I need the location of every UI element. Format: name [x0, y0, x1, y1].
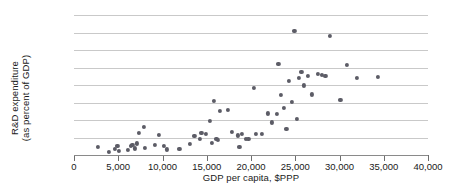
x-tick-label: 30,000: [325, 161, 354, 172]
data-point: [266, 111, 270, 115]
data-point: [165, 147, 169, 151]
data-point: [260, 132, 264, 136]
data-point: [198, 137, 202, 141]
gridline-y-2.5: [74, 68, 428, 69]
data-point: [229, 130, 233, 134]
data-point: [143, 146, 147, 150]
gridline-y-0.5: [74, 138, 428, 139]
data-point: [276, 62, 280, 66]
data-point: [252, 86, 256, 90]
data-point: [275, 112, 279, 116]
scatter-chart-figure: R&D expenditure (as percent of GDP) GDP …: [0, 0, 458, 196]
data-point: [216, 138, 220, 142]
data-point: [246, 136, 250, 140]
data-point: [328, 34, 332, 38]
data-point: [310, 92, 314, 96]
data-point: [115, 144, 119, 148]
data-point: [117, 149, 121, 153]
data-point: [287, 79, 291, 83]
data-point: [344, 63, 348, 67]
data-point: [279, 93, 283, 97]
data-point: [188, 142, 192, 146]
data-point: [96, 145, 100, 149]
data-point: [208, 119, 212, 123]
data-point: [338, 98, 342, 102]
data-point: [282, 106, 286, 110]
data-point: [254, 132, 258, 136]
gridline-y-1: [74, 120, 428, 121]
data-point: [297, 76, 301, 80]
y-axis-title-line2: (as percent of GDP): [20, 55, 32, 141]
data-point: [226, 108, 230, 112]
gridline-y-1.5: [74, 103, 428, 104]
data-point: [270, 120, 274, 124]
data-point: [157, 133, 161, 137]
data-point: [106, 149, 110, 153]
x-tick-label: 5,000: [106, 161, 130, 172]
y-axis-title: R&D expenditure (as percent of GDP): [0, 0, 40, 196]
x-axis-title: GDP per capita, $PPP: [74, 172, 428, 183]
x-tick-label: 40,000: [413, 161, 442, 172]
data-point: [142, 125, 146, 129]
x-tick-label: 0: [71, 161, 76, 172]
data-point: [302, 83, 306, 87]
y-axis-title-line1: R&D expenditure: [9, 55, 21, 141]
gridline-y-3: [74, 50, 428, 51]
data-point: [135, 141, 139, 145]
x-tick-label: 20,000: [236, 161, 265, 172]
gridline-y-4: [74, 15, 428, 16]
x-tick-label: 10,000: [148, 161, 177, 172]
data-point: [355, 76, 359, 80]
data-point: [306, 74, 310, 78]
gridline-y-3.5: [74, 33, 428, 34]
plot-area: [74, 15, 428, 155]
data-point: [204, 132, 208, 136]
data-point: [152, 142, 156, 146]
data-point: [299, 70, 303, 74]
data-point: [133, 146, 137, 150]
x-tick-label: 25,000: [281, 161, 310, 172]
data-point: [177, 147, 181, 151]
data-point: [240, 132, 244, 136]
x-tick-label: 35,000: [369, 161, 398, 172]
data-point: [218, 109, 222, 113]
data-point: [284, 127, 288, 131]
data-point: [237, 145, 241, 149]
data-point: [126, 148, 130, 152]
data-point: [137, 131, 141, 135]
data-point: [375, 75, 379, 79]
data-point: [210, 141, 214, 145]
data-point: [323, 74, 327, 78]
x-tick-label: 15,000: [192, 161, 221, 172]
